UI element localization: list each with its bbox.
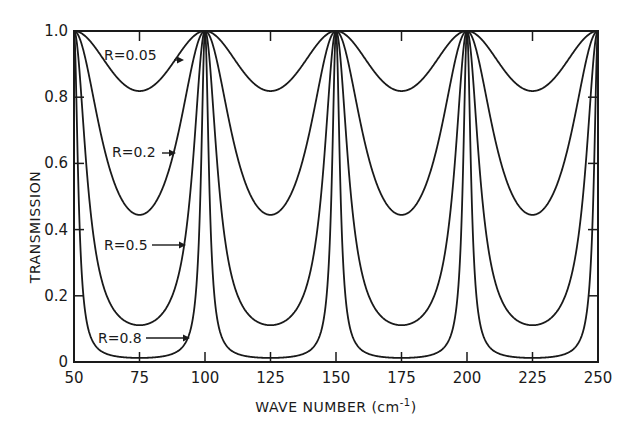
- plot-frame: [74, 31, 598, 362]
- curve-label: R=0.8: [98, 330, 142, 346]
- arrow-head-icon: [177, 57, 184, 64]
- x-axis-title: WAVE NUMBER (cm-1): [255, 397, 416, 415]
- x-tick-label: 125: [256, 369, 285, 387]
- x-axis-title-sup: -1: [400, 397, 411, 408]
- curve-labels: R=0.05R=0.2R=0.5R=0.8: [98, 47, 190, 346]
- x-axis-title-close: ): [411, 399, 417, 415]
- curve-label: R=0.05: [104, 47, 157, 63]
- x-tick-label: 100: [191, 369, 220, 387]
- x-tick-label: 50: [64, 369, 83, 387]
- x-tick-label: 250: [584, 369, 613, 387]
- y-tick-label: 0.4: [44, 221, 68, 239]
- x-tick-label: 225: [518, 369, 547, 387]
- y-tick-label: 0.8: [44, 88, 68, 106]
- x-axis-title-main: WAVE NUMBER (cm: [255, 399, 399, 415]
- transmission-curves: [74, 31, 598, 358]
- y-tick-label: 0.6: [44, 154, 68, 172]
- y-tick-label: 1.0: [44, 22, 68, 40]
- curve-label: R=0.2: [112, 144, 156, 160]
- y-axis-title: TRANSMISSION: [27, 171, 43, 284]
- curve-r-0-5: [74, 31, 598, 325]
- x-tick-label: 150: [322, 369, 351, 387]
- x-tick-label: 75: [130, 369, 149, 387]
- x-tick-label: 200: [453, 369, 482, 387]
- x-tick-label: 175: [387, 369, 416, 387]
- y-tick-label: 0: [58, 353, 68, 371]
- curve-label: R=0.5: [104, 237, 148, 253]
- transmission-chart: 5075100125150175200225250 00.20.40.60.81…: [0, 0, 634, 430]
- y-tick-label: 0.2: [44, 287, 68, 305]
- curve-r-0-8: [74, 31, 598, 358]
